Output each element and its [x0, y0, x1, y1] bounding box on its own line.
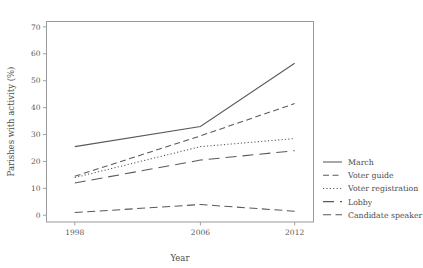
y-axis-ticks: 010203040506070 [31, 23, 47, 220]
y-tick-label: 50 [31, 76, 41, 85]
legend-label-candidate-speaker: Candidate speaker [348, 211, 423, 220]
chart-legend: MarchVoter guideVoter registrationLobbyC… [323, 158, 423, 220]
y-axis-title: Parishes with activity (%) [6, 67, 16, 177]
y-tick-label: 10 [31, 184, 41, 193]
x-axis-title: Year [169, 253, 190, 263]
series-line-candidate-speaker [75, 205, 295, 213]
x-tick-label: 1998 [65, 228, 84, 237]
y-tick-label: 20 [31, 157, 41, 166]
x-tick-label: 2012 [285, 228, 304, 237]
legend-label-voter-registration: Voter registration [347, 184, 418, 193]
y-tick-label: 0 [36, 211, 41, 220]
y-tick-label: 40 [31, 103, 41, 112]
x-axis-ticks: 199820062012 [65, 222, 304, 237]
legend-label-march: March [348, 158, 374, 167]
x-tick-label: 2006 [191, 228, 210, 237]
series-line-voter-guide [75, 104, 295, 177]
series-line-voter-registration [75, 139, 295, 178]
plot-frame [47, 22, 314, 223]
legend-label-voter-guide: Voter guide [347, 171, 394, 180]
chart-svg: 010203040506070 199820062012 Parishes wi… [0, 0, 423, 268]
series-line-lobby [75, 151, 295, 183]
y-tick-label: 60 [31, 49, 41, 58]
series-line-march [75, 63, 295, 146]
line-chart: 010203040506070 199820062012 Parishes wi… [0, 0, 423, 268]
legend-label-lobby: Lobby [348, 198, 373, 207]
data-series-group [75, 63, 295, 212]
y-tick-label: 30 [31, 130, 41, 139]
y-tick-label: 70 [31, 23, 41, 32]
